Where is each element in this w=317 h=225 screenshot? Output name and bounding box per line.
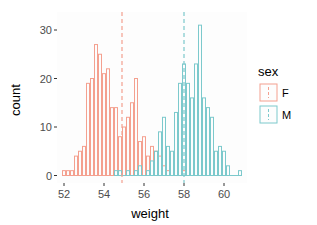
legend: sex FM [258, 64, 291, 123]
y-tick-label: 30 [40, 24, 52, 36]
x-tick-label: 58 [178, 188, 190, 200]
legend-label-F: F [282, 87, 289, 99]
x-axis-title: weight [130, 206, 169, 221]
x-tick-label: 52 [58, 188, 70, 200]
y-tick-label: 10 [40, 121, 52, 133]
y-tick-label: 20 [40, 73, 52, 85]
x-tick-label: 56 [138, 188, 150, 200]
y-tick-label: 0 [46, 170, 52, 182]
legend-title: sex [258, 64, 279, 79]
y-axis: 0102030 [40, 24, 57, 182]
x-axis: 5254565860 [58, 183, 230, 200]
x-tick-label: 60 [218, 188, 230, 200]
histogram-chart: 0102030 5254565860 weight count sex FM [0, 0, 317, 225]
legend-label-M: M [282, 109, 291, 121]
y-axis-title: count [8, 84, 23, 116]
x-tick-label: 54 [98, 188, 110, 200]
